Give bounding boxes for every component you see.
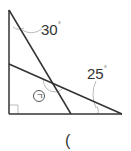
unknown-angle-label: ㄱ <box>36 92 43 101</box>
right-angle-marker <box>9 105 18 114</box>
angle-label-30: 30 <box>41 21 58 38</box>
leader-25 <box>93 81 96 108</box>
angle-arc-25 <box>97 106 98 114</box>
degree-mark-30: ° <box>58 21 61 28</box>
geometry-diagram: 30 ° 25 ° ㄱ ( <box>0 0 131 151</box>
leader-30 <box>22 29 42 33</box>
angle-label-25: 25 <box>87 65 104 82</box>
degree-mark-25: ° <box>104 65 107 72</box>
answer-blank: ( <box>65 132 71 149</box>
